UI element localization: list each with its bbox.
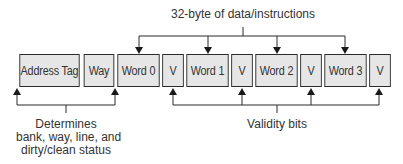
valid-bit-1: V (231, 54, 253, 87)
word-0-field: Word 0 (117, 54, 159, 87)
valid-bit-0: V (162, 54, 184, 87)
word-3-field: Word 3 (324, 54, 366, 87)
word-1-field: Word 1 (186, 54, 228, 87)
validity-bits-label: Validity bits (227, 118, 327, 131)
determines-line-3: dirty/clean status (16, 144, 116, 157)
way-field: Way (84, 54, 115, 87)
word-2-field: Word 2 (255, 54, 297, 87)
valid-bit-2: V (300, 54, 322, 87)
data-instructions-label: 32-byte of data/instructions (163, 8, 323, 21)
determines-label: Determines bank, way, line, and dirty/cl… (16, 118, 116, 157)
valid-bit-3: V (369, 54, 391, 87)
address-tag-field: Address Tag (19, 54, 79, 87)
